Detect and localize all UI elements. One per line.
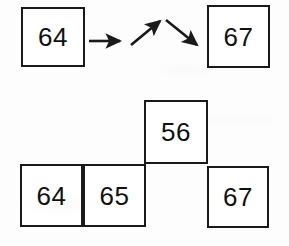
cluster-box-65[interactable]: 65	[83, 164, 146, 227]
cluster-box-56-label: 56	[161, 119, 191, 145]
top-box-64[interactable]: 64	[21, 7, 85, 67]
cluster-box-67-label: 67	[223, 184, 253, 210]
cluster-box-56[interactable]: 56	[144, 100, 208, 164]
top-box-67-label: 67	[224, 24, 254, 50]
arrow-up-right-icon	[131, 21, 160, 45]
arrow-down-right-icon	[166, 20, 197, 45]
cluster-box-64-label: 64	[37, 183, 67, 209]
top-box-64-label: 64	[38, 24, 68, 50]
diagram-canvas: 64 67 56 64 65 67	[0, 0, 289, 246]
top-box-67[interactable]: 67	[207, 5, 270, 68]
cluster-box-67[interactable]: 67	[207, 166, 269, 228]
cluster-box-64[interactable]: 64	[20, 164, 83, 227]
cluster-box-65-label: 65	[100, 183, 130, 209]
